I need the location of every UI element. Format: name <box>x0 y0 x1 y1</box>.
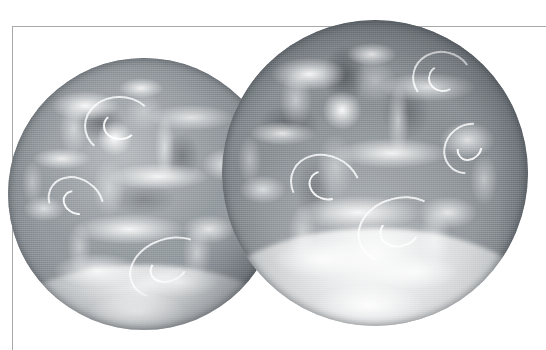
figure-caption-area <box>14 332 534 348</box>
figure-page <box>0 0 546 350</box>
limb-terminator-right <box>222 20 528 326</box>
figure-top-rule <box>12 26 546 27</box>
earth-disc-right <box>222 20 528 326</box>
